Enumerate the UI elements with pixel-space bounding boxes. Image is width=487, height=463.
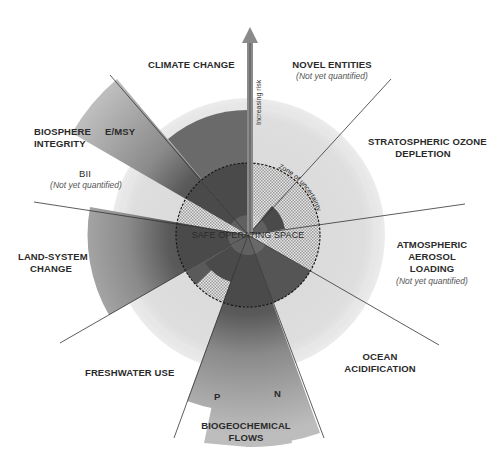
label-atmospheric-aerosol-line2: AEROSOL: [392, 251, 472, 263]
label-biogeochemical-p: P: [214, 391, 220, 403]
label-freshwater-use: FRESHWATER USE: [85, 367, 174, 379]
label-biogeochemical-line1: BIOGEOCHEMICAL: [200, 420, 292, 432]
label-atmospheric-aerosol-line1: ATMOSPHERIC: [392, 239, 472, 251]
arrow-label: Increasing risk: [255, 79, 263, 125]
note-biosphere-bii: (Not yet quantified): [40, 180, 132, 190]
label-climate-change: CLIMATE CHANGE: [148, 59, 235, 71]
label-biosphere-emsy: E/MSY: [105, 126, 135, 138]
label-land-system-line2: CHANGE: [18, 263, 84, 275]
label-atmospheric-aerosol-line3: LOADING: [392, 263, 472, 275]
note-novel-entities: (Not yet quantified): [280, 71, 384, 81]
label-biosphere-line1: BIOSPHERE: [34, 126, 84, 138]
label-ocean-acidification-line2: ACIDIFICATION: [340, 363, 420, 375]
label-biogeochemical-line2: FLOWS: [200, 432, 292, 444]
label-ocean-acidification-line1: OCEAN: [340, 351, 420, 363]
label-stratospheric-ozone-line2: DEPLETION: [368, 148, 478, 160]
label-novel-entities: NOVEL ENTITIES: [280, 59, 384, 71]
label-biogeochemical-n: N: [274, 388, 281, 400]
label-biosphere-bii: BII: [70, 168, 100, 180]
label-stratospheric-ozone-line1: STRATOSPHERIC OZONE: [368, 136, 478, 148]
note-atmospheric-aerosol: (Not yet quantified): [386, 276, 478, 286]
label-land-system-line1: LAND-SYSTEM: [18, 251, 84, 263]
label-biosphere-line2: INTEGRITY: [34, 138, 84, 150]
safe-operating-space-label: SAFE OPERATING SPACE: [188, 229, 308, 241]
